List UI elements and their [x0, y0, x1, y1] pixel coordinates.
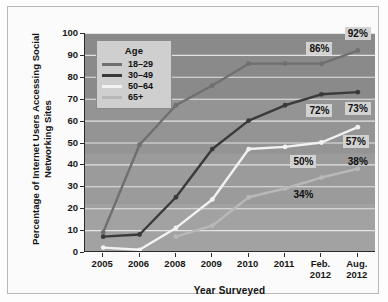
legend-item-50-64: 50–64 [102, 81, 166, 92]
y-axis-tick-mark [80, 164, 84, 165]
x-axis-tick-mark [248, 253, 249, 257]
legend-label: 18–29 [128, 59, 153, 70]
legend-item-65+: 65+ [102, 92, 166, 103]
data-label: 72% [306, 104, 332, 117]
x-axis-tick-mark [211, 253, 212, 257]
data-label: 73% [345, 102, 371, 115]
x-axis-tick-mark [357, 253, 358, 257]
y-axis-tick-mark [80, 230, 84, 231]
legend-label: 30–49 [128, 70, 153, 81]
y-axis-title: Percentage of Internet Users Accessing S… [30, 29, 54, 249]
chart-frame: 0102030405060708090100200520062008200920… [7, 6, 379, 294]
y-axis-tick-mark [80, 77, 84, 78]
y-axis-tick-mark [80, 252, 84, 253]
legend-label: 65+ [128, 92, 143, 103]
legend-entries: 18–2930–4950–6465+ [102, 59, 166, 103]
legend-swatch-icon [102, 96, 122, 99]
legend-item-18-29: 18–29 [102, 59, 166, 70]
chart-figure: 0102030405060708090100200520062008200920… [0, 0, 388, 302]
x-axis-title: Year Surveyed [84, 285, 375, 296]
data-label: 92% [345, 27, 371, 40]
x-axis-tick-mark [175, 253, 176, 257]
x-axis-tick-mark [320, 253, 321, 257]
y-axis-tick-mark [80, 121, 84, 122]
legend-swatch-icon [102, 85, 122, 88]
data-label: 50% [290, 155, 316, 168]
y-axis-tick-mark [80, 186, 84, 187]
data-label: 38% [345, 155, 371, 168]
y-axis-tick-mark [80, 99, 84, 100]
legend-title: Age [102, 45, 166, 56]
data-label: 34% [290, 188, 316, 201]
y-axis-tick-mark [80, 143, 84, 144]
chart-legend: Age 18–2930–4950–6465+ [96, 40, 172, 109]
data-label: 57% [343, 135, 369, 148]
x-axis-tick-mark [284, 253, 285, 257]
y-axis-tick-mark [80, 208, 84, 209]
y-axis-tick-mark [80, 33, 84, 34]
legend-swatch-icon [102, 74, 122, 77]
x-axis-tick-mark [139, 253, 140, 257]
y-axis-tick-mark [80, 55, 84, 56]
x-axis-tick-mark [102, 253, 103, 257]
data-label: 86% [306, 42, 332, 55]
legend-swatch-icon [102, 63, 122, 66]
legend-label: 50–64 [128, 81, 153, 92]
x-axis-tick-label: Aug.2012 [333, 258, 381, 280]
legend-item-30-49: 30–49 [102, 70, 166, 81]
